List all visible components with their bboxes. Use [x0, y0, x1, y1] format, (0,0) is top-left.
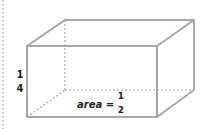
top-face-edges: [27, 20, 194, 46]
prism-diagram: 1 4 area = 1 2: [0, 0, 207, 129]
area-denominator: 2: [118, 105, 124, 115]
right-face-edges: [157, 20, 194, 117]
height-label: 1 4: [17, 69, 24, 94]
height-denominator: 4: [17, 83, 24, 94]
height-numerator: 1: [17, 69, 24, 80]
base-area-label: area = 1 2: [77, 91, 124, 115]
area-text: area =: [77, 99, 114, 110]
area-numerator: 1: [118, 91, 124, 101]
